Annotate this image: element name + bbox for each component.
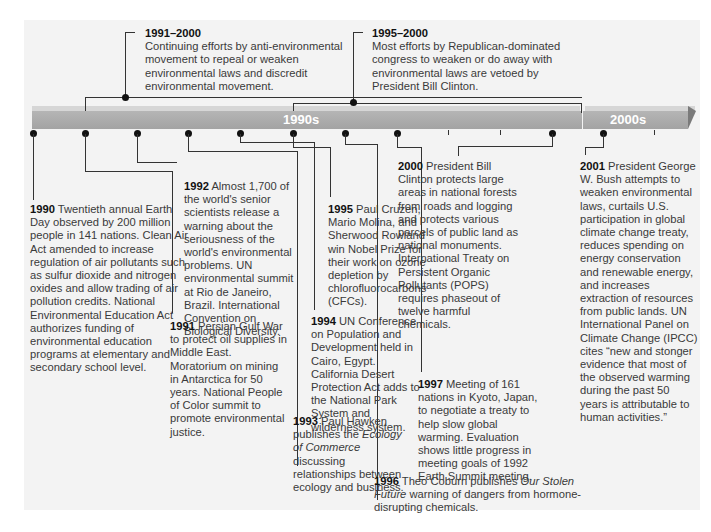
connector-2001-b (585, 147, 604, 148)
connector-1995-c (330, 147, 331, 197)
connector-1995-b (293, 147, 330, 148)
event-1991: 1991 Persian Gulf War to protect oil sup… (170, 320, 288, 439)
event-1997: 1997 Meeting of 161 nations in Kyoto, Ja… (418, 378, 538, 484)
span-1991-2000: 1991–2000 Continuing efforts by anti-env… (145, 27, 345, 93)
span-1995-leader-h (353, 32, 363, 33)
span-1995-2000-bracket (293, 103, 582, 104)
span-1991-left (85, 97, 86, 111)
span-1991-leader-h (125, 32, 135, 33)
span-1995-left (293, 103, 294, 111)
span-1991-2000-bracket (85, 97, 582, 98)
connector-2000-b (458, 146, 553, 147)
connector-2000-c (458, 146, 459, 156)
connector-1994-b (240, 142, 314, 143)
connector-1991-b (85, 171, 173, 172)
connector-1990 (33, 134, 34, 200)
connector-2001-a (603, 134, 604, 147)
connector-1993-b (188, 151, 298, 152)
connector-1992-b (137, 162, 177, 163)
connector-2000-a (552, 134, 553, 146)
decade-label-1990s: 1990s (283, 111, 319, 129)
connector-1991-a (85, 134, 86, 171)
connector-1994-c (314, 142, 315, 310)
connector-1992-a (137, 134, 138, 162)
tick-1999 (500, 130, 501, 135)
tick-1998 (448, 130, 449, 135)
decade-label-2000s: 2000s (610, 111, 646, 129)
span-1991-dot (122, 94, 129, 101)
event-1990: 1990 Twentieth annual Earth Day observed… (30, 203, 190, 375)
event-1992: 1992 Almost 1,700 of the world's senior … (184, 180, 302, 338)
tick-2002 (654, 130, 655, 135)
connector-1997-b (397, 147, 421, 148)
span-1995-dot (350, 99, 357, 106)
band-end-bevel (688, 106, 696, 129)
connector-1995-a (293, 134, 294, 148)
connector-1996-a (345, 134, 346, 144)
span-1995-2000: 1995–2000 Most efforts by Republican-dom… (372, 27, 582, 93)
event-2000: 2000 President Bill Clinton protects lar… (398, 160, 523, 332)
span-1991-leader (125, 32, 126, 97)
connector-2001-c (585, 147, 586, 155)
connector-1996-b (345, 144, 377, 145)
event-2001: 2001 President George W. Bush attempts t… (580, 160, 700, 424)
connector-1994-a (240, 134, 241, 142)
span-1995-right (581, 103, 582, 113)
connector-1997-a (397, 134, 398, 148)
event-1996: 1996 Theo Coburn publishes Our Stolen Fu… (374, 475, 589, 515)
span-1995-leader (353, 32, 354, 102)
connector-1993-a (188, 134, 189, 152)
